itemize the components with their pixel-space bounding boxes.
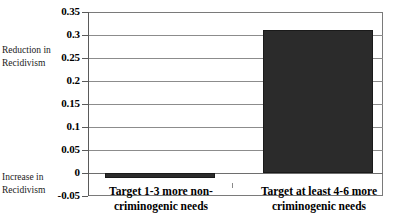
annotation-increase-line2: Recidivism — [2, 184, 80, 197]
y-tick-mark-0 — [82, 173, 88, 174]
category-label-1: Target 1-3 more non- criminogenic needs — [96, 184, 226, 213]
annotation-reduction-line2: Recidivism — [2, 57, 80, 70]
annotation-reduction-in-recidivism: Reduction in Recidivism — [2, 44, 80, 70]
category-axis-tick — [232, 183, 233, 188]
bar-target-1-3-non-criminogenic — [105, 173, 215, 178]
category-label-2: Target at least 4-6 more criminogenic ne… — [244, 184, 394, 213]
y-tick-label-0.1: 0.1 — [34, 121, 80, 132]
y-tick-label-0.2: 0.2 — [34, 75, 80, 86]
bar-target-4-6-criminogenic — [263, 30, 373, 173]
y-tick-mark-0.3 — [82, 35, 88, 36]
y-tick-mark--0.05 — [82, 196, 88, 197]
category-label-1-line2: criminogenic needs — [96, 199, 226, 214]
y-tick-label-0.3: 0.3 — [34, 29, 80, 40]
annotation-increase-in-recidivism: Increase in Recidivism — [2, 171, 80, 197]
category-label-1-line1: Target 1-3 more non- — [96, 184, 226, 199]
y-tick-mark-0.25 — [82, 58, 88, 59]
y-tick-label-0.05: 0.05 — [34, 144, 80, 155]
y-axis-line — [88, 12, 89, 196]
category-label-2-line2: criminogenic needs — [244, 199, 394, 214]
annotation-increase-line1: Increase in — [2, 171, 80, 184]
y-tick-label-0.35: 0.35 — [34, 6, 80, 17]
category-label-2-line1: Target at least 4-6 more — [244, 184, 394, 199]
y-tick-label-0.15: 0.15 — [34, 98, 80, 109]
y-tick-mark-0.15 — [82, 104, 88, 105]
y-tick-mark-0.35 — [82, 12, 88, 13]
bar-chart: 0.350.30.250.20.150.10.050-0.05 Target 1… — [0, 0, 401, 217]
y-tick-mark-0.1 — [82, 127, 88, 128]
y-tick-mark-0.05 — [82, 150, 88, 151]
y-tick-mark-0.2 — [82, 81, 88, 82]
annotation-reduction-line1: Reduction in — [2, 44, 80, 57]
